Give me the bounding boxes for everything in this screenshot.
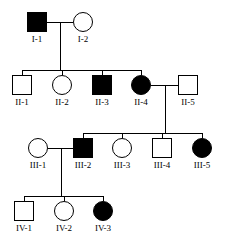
label-i-2: I-2 [63, 34, 103, 44]
label-iii-3: III-3 [102, 160, 142, 170]
label-i-1: I-1 [17, 34, 57, 44]
label-iv-1: IV-1 [4, 223, 44, 233]
symbol-iv-2-female-unaffected [55, 202, 74, 221]
label-iii-2: III-2 [63, 160, 103, 170]
symbol-iii-1-female-unaffected [29, 139, 48, 158]
symbol-i-2-female-unaffected [74, 13, 93, 32]
symbol-iii-2-male-affected [74, 139, 93, 158]
symbol-iv-3-female-affected [94, 202, 113, 221]
symbol-i-1-male-affected [28, 13, 47, 32]
label-ii-3: II-3 [82, 97, 122, 107]
symbol-iii-4-male-unaffected [153, 139, 172, 158]
label-iii-1: III-1 [18, 160, 58, 170]
symbol-iii-5-female-affected [193, 139, 212, 158]
label-ii-5: II-5 [168, 97, 208, 107]
label-ii-1: II-1 [2, 97, 42, 107]
label-ii-4: II-4 [121, 97, 161, 107]
connector-lines [22, 22, 202, 201]
symbol-ii-1-male-unaffected [13, 76, 32, 95]
pedigree-chart: I-1I-2II-1II-2II-3II-4II-5III-1III-2III-… [0, 0, 227, 250]
label-ii-2: II-2 [42, 97, 82, 107]
label-iv-3: IV-3 [83, 223, 123, 233]
symbol-iii-3-female-unaffected [113, 139, 132, 158]
symbol-ii-4-female-affected [132, 76, 151, 95]
label-iv-2: IV-2 [44, 223, 84, 233]
symbol-iv-1-male-unaffected [15, 202, 34, 221]
symbol-ii-3-male-affected [93, 76, 112, 95]
label-iii-4: III-4 [142, 160, 182, 170]
symbol-ii-2-female-unaffected [53, 76, 72, 95]
symbol-ii-5-male-unaffected [179, 76, 198, 95]
label-iii-5: III-5 [182, 160, 222, 170]
